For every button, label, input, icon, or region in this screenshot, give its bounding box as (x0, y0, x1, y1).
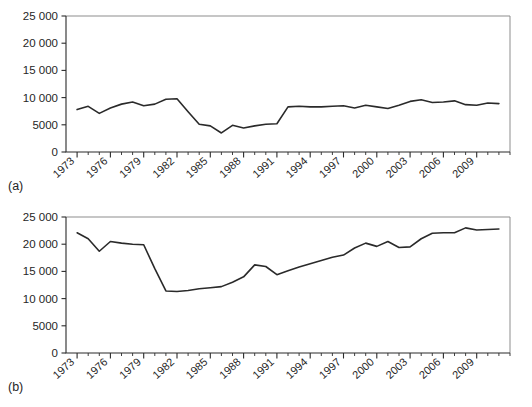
y-tick-label: 15 000 (23, 265, 58, 277)
x-tick-label-group: 1988 (217, 356, 243, 381)
y-tick-label: 25 000 (23, 10, 58, 22)
x-tick-label-group: 2009 (450, 356, 476, 381)
x-tick-label-group: 1991 (250, 356, 276, 381)
x-tick-label-group: 1985 (183, 155, 209, 180)
data-series-line (77, 99, 499, 133)
y-tick-label: 5000 (32, 119, 58, 131)
plot-frame (66, 217, 510, 353)
x-tick-label: 2006 (417, 356, 443, 381)
plot-axes (66, 217, 510, 353)
x-tick-label: 1985 (183, 356, 209, 381)
y-tick-label: 5000 (32, 320, 58, 332)
x-tick-label-group: 1997 (317, 356, 343, 381)
x-tick-label: 1982 (150, 356, 176, 381)
plot-axes (66, 16, 510, 152)
x-tick-label-group: 1997 (317, 155, 343, 180)
y-tick-label: 20 000 (23, 238, 58, 250)
x-tick-label-group: 1985 (183, 356, 209, 381)
x-tick-label: 2009 (450, 155, 476, 180)
x-tick-label: 1988 (217, 155, 243, 180)
x-tick-label: 1991 (250, 155, 276, 180)
chart-svg-b: 0500010 00015 00020 00025 00019731976197… (0, 200, 532, 407)
x-tick-label: 2006 (417, 155, 443, 180)
figure-two-line-charts: 0500010 00015 00020 00025 00019731976197… (0, 0, 532, 407)
x-tick-label: 1997 (317, 356, 343, 381)
x-tick-label-group: 2006 (417, 356, 443, 381)
y-tick-label: 0 (52, 146, 58, 158)
chart-panel-a: 0500010 00015 00020 00025 00019731976197… (0, 0, 532, 200)
x-tick-label-group: 1973 (50, 155, 76, 180)
x-tick-label-group: 1988 (217, 155, 243, 180)
x-tick-label: 1976 (84, 356, 110, 381)
x-tick-label: 1994 (283, 356, 309, 381)
x-tick-label-group: 2000 (350, 155, 376, 180)
x-tick-label: 1988 (217, 356, 243, 381)
x-tick-label: 2000 (350, 155, 376, 180)
y-tick-label: 10 000 (23, 92, 58, 104)
x-tick-label-group: 2003 (383, 356, 409, 381)
x-tick-label: 1979 (117, 356, 143, 381)
x-tick-label: 1985 (183, 155, 209, 180)
y-tick-label: 15 000 (23, 64, 58, 76)
plot-frame (66, 16, 510, 152)
x-tick-label: 1973 (50, 155, 76, 180)
x-tick-label: 1994 (283, 155, 309, 180)
x-tick-label: 1982 (150, 155, 176, 180)
x-tick-label: 2009 (450, 356, 476, 381)
x-tick-label: 1979 (117, 155, 143, 180)
y-tick-label: 25 000 (23, 211, 58, 223)
x-tick-label-group: 1976 (84, 356, 110, 381)
x-tick-label: 2003 (383, 155, 409, 180)
x-tick-label-group: 1994 (283, 155, 309, 180)
x-tick-label-group: 2006 (417, 155, 443, 180)
x-tick-label: 1973 (50, 356, 76, 381)
y-tick-label: 10 000 (23, 293, 58, 305)
x-tick-label-group: 1994 (283, 356, 309, 381)
x-tick-label-group: 1982 (150, 155, 176, 180)
x-tick-label-group: 1991 (250, 155, 276, 180)
x-tick-label-group: 2009 (450, 155, 476, 180)
y-tick-label: 20 000 (23, 37, 58, 49)
x-tick-label: 2000 (350, 356, 376, 381)
x-tick-label: 1991 (250, 356, 276, 381)
x-tick-label-group: 1976 (84, 155, 110, 180)
x-tick-label-group: 2000 (350, 356, 376, 381)
y-tick-label: 0 (52, 347, 58, 359)
x-tick-label-group: 1973 (50, 356, 76, 381)
x-tick-label-group: 2003 (383, 155, 409, 180)
x-tick-label: 2003 (383, 356, 409, 381)
panel-tag-label: (b) (8, 380, 23, 394)
panel-tag-label: (a) (8, 179, 23, 193)
data-series-line (77, 228, 499, 292)
chart-panel-b: 0500010 00015 00020 00025 00019731976197… (0, 200, 532, 407)
x-tick-label-group: 1979 (117, 356, 143, 381)
x-tick-label: 1976 (84, 155, 110, 180)
chart-svg-a: 0500010 00015 00020 00025 00019731976197… (0, 0, 532, 200)
x-tick-label-group: 1982 (150, 356, 176, 381)
x-tick-label-group: 1979 (117, 155, 143, 180)
x-tick-label: 1997 (317, 155, 343, 180)
